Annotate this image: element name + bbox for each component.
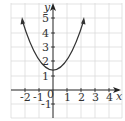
x-axis-label: x bbox=[116, 90, 123, 103]
x-tick-label: 2 bbox=[78, 91, 85, 104]
y-tick-label: 3 bbox=[42, 41, 49, 54]
x-tick-label: 3 bbox=[92, 91, 99, 104]
y-tick-label: 2 bbox=[42, 55, 49, 68]
y-axis-label: y bbox=[43, 1, 51, 14]
y-tick-label: -1 bbox=[41, 98, 52, 111]
parabola-chart: -2 -1 0 1 2 3 4 5 4 3 2 1 -1 x y bbox=[0, 0, 125, 121]
x-tick-label: -2 bbox=[20, 91, 31, 104]
x-tick-label: 4 bbox=[106, 91, 113, 104]
x-tick-label: 1 bbox=[64, 91, 71, 104]
y-tick-label: 1 bbox=[42, 70, 49, 83]
y-tick-label: 4 bbox=[42, 27, 49, 40]
